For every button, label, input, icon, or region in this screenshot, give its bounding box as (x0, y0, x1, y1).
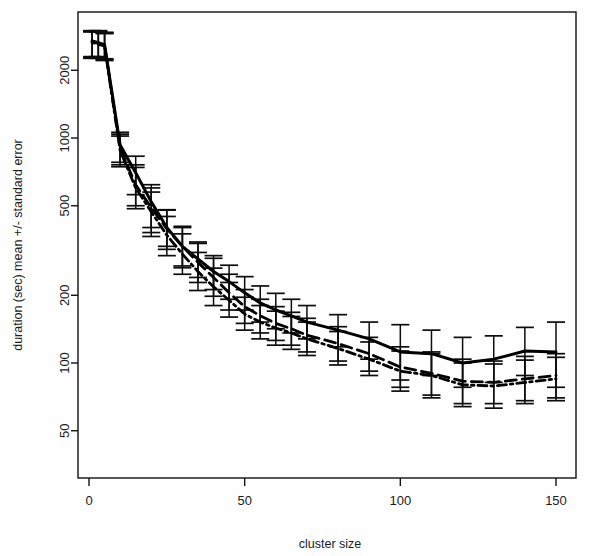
y-tick-label: 200 (57, 284, 72, 306)
y-tick-label: 2000 (57, 56, 72, 85)
y-axis-title: duration (sec) mean +/- standard error (11, 139, 25, 351)
chart-figure: 5010020050010002000 050100150 duration (… (0, 0, 610, 556)
x-tick-label: 100 (389, 493, 411, 508)
x-tick-label: 50 (237, 493, 251, 508)
figure-background (0, 0, 610, 556)
y-tick-label: 100 (57, 352, 72, 374)
x-tick-label: 0 (85, 493, 92, 508)
x-tick-label: 150 (545, 493, 567, 508)
y-tick-label: 50 (57, 423, 72, 437)
y-tick-label: 1000 (57, 124, 72, 153)
x-axis-title: cluster size (299, 537, 362, 551)
y-tick-label: 500 (57, 195, 72, 217)
line-chart-canvas: 5010020050010002000 050100150 duration (… (0, 0, 610, 556)
